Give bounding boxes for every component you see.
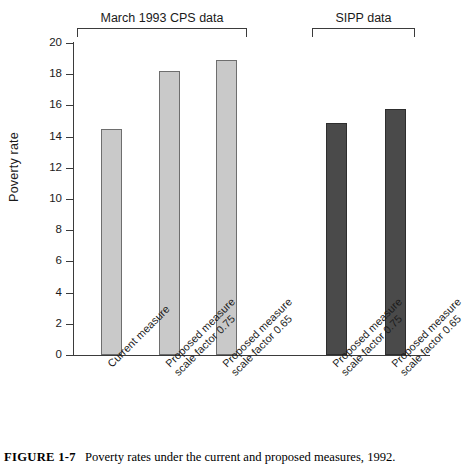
y-tick-label: 0 (16, 349, 62, 361)
y-tick-mark (66, 355, 74, 356)
figure-caption: FIGURE 1-7Poverty rates under the curren… (4, 450, 440, 465)
group-bracket-sipp (312, 28, 415, 37)
y-tick-label: 18 (16, 68, 62, 80)
y-tick-label: 16 (16, 99, 62, 111)
group-label-cps: March 1993 CPS data (77, 11, 247, 25)
bar (326, 123, 347, 355)
figure-caption-text: Poverty rates under the current and prop… (85, 450, 396, 464)
y-tick-label: 12 (16, 162, 62, 174)
bars-layer (73, 43, 433, 355)
y-tick-label: 20 (16, 37, 62, 49)
y-tick-label: 8 (16, 224, 62, 236)
group-label-sipp: SIPP data (312, 11, 415, 25)
y-tick-label: 10 (16, 193, 62, 205)
y-tick-label: 6 (16, 255, 62, 267)
group-bracket-cps (77, 28, 247, 37)
figure-number: FIGURE 1-7 (4, 450, 76, 464)
y-tick-label: 2 (16, 318, 62, 330)
y-tick-label: 14 (16, 131, 62, 143)
bar (101, 129, 122, 355)
y-tick-label: 4 (16, 287, 62, 299)
